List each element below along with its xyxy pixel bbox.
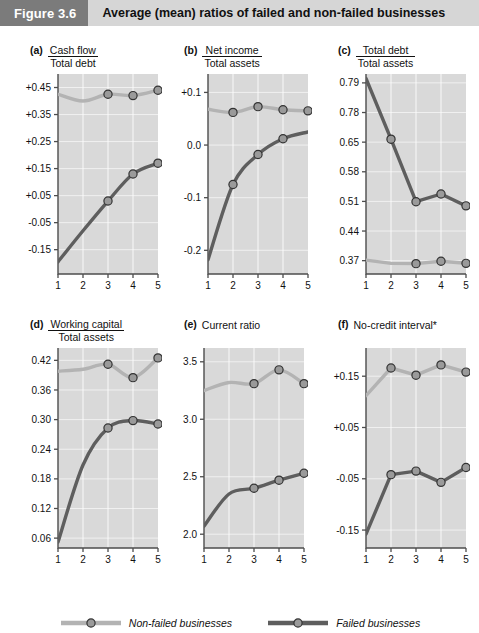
y-tick-label-a-5: -0.05: [28, 217, 51, 228]
y-tick-label-b-0: +0.1: [181, 87, 201, 98]
data-point-marker-d-1-4: [154, 420, 162, 428]
data-point-marker-c-1-2: [412, 198, 420, 206]
chart-svg-a: +0.45+0.35+0.25+0.15+0.05-0.05-0.1512345: [14, 70, 162, 293]
data-point-marker-a-0-4: [154, 86, 162, 94]
y-tick-label-f-3: -0.15: [336, 525, 359, 536]
y-tick-label-a-6: -0.15: [28, 244, 51, 255]
chart-panel-b: (b)Net incomeTotal assets+0.10.0-0.1-0.2…: [168, 44, 312, 293]
chart-title-a: (a)Cash flowTotal debt: [30, 44, 162, 70]
x-tick-label-d-2: 3: [105, 554, 111, 565]
legend-item-failed: Failed businesses: [266, 617, 420, 629]
chart-title-c: (c)Total debtTotal assets: [338, 44, 470, 70]
data-point-marker-d-1-2: [104, 424, 112, 432]
y-tick-label-d-3: 0.24: [32, 444, 52, 455]
panel-letter-d: (d): [30, 318, 43, 330]
data-point-marker-f-0-3: [437, 361, 445, 369]
x-tick-label-b-2: 3: [255, 280, 261, 291]
panel-letter-b: (b): [184, 44, 197, 56]
chart-legend: Non-failed businessesFailed businesses: [0, 612, 479, 633]
data-point-marker-e-0-4: [300, 380, 308, 388]
y-tick-label-a-3: +0.15: [26, 163, 52, 174]
y-tick-label-a-1: +0.35: [26, 109, 52, 120]
x-tick-label-d-4: 5: [155, 554, 161, 565]
ratio-numerator-a: Cash flow: [48, 44, 98, 57]
panel-letter-e: (e): [184, 318, 197, 330]
x-tick-label-e-4: 5: [301, 554, 307, 565]
data-point-marker-c-1-1: [387, 135, 395, 143]
chart-title-e: (e)Current ratio: [184, 318, 308, 344]
ratio-denominator-c: Total assets: [356, 57, 415, 69]
y-tick-label-c-0: 0.79: [340, 77, 360, 88]
data-point-marker-c-1-4: [462, 202, 470, 210]
x-tick-label-d-3: 4: [130, 554, 136, 565]
x-tick-label-f-2: 3: [413, 554, 419, 565]
x-tick-label-b-4: 5: [305, 280, 311, 291]
x-tick-label-b-1: 2: [230, 280, 236, 291]
y-tick-label-f-1: +0.05: [334, 422, 360, 433]
data-point-marker-b-0-2: [254, 103, 262, 111]
data-point-marker-e-0-2: [250, 380, 258, 388]
x-tick-label-c-0: 1: [363, 280, 369, 291]
legend-swatch-0: [59, 617, 123, 629]
x-tick-label-a-3: 4: [130, 280, 136, 291]
data-point-marker-b-1-1: [229, 180, 237, 188]
data-point-marker-f-0-4: [462, 368, 470, 376]
data-point-marker-a-0-3: [129, 92, 137, 100]
y-tick-label-c-6: 0.37: [340, 255, 360, 266]
panel-letter-f: (f): [338, 318, 349, 330]
legend-label-1: Failed businesses: [336, 617, 420, 629]
data-point-marker-d-0-2: [104, 360, 112, 368]
plain-title-e: Current ratio: [202, 318, 260, 331]
chart-panel-c: (c)Total debtTotal assets0.790.780.650.5…: [322, 44, 470, 293]
chart-title-d: (d)Working capitalTotal assets: [30, 318, 162, 344]
x-tick-label-f-0: 1: [363, 554, 369, 565]
y-tick-label-d-0: 0.42: [32, 355, 52, 366]
data-point-marker-f-1-1: [387, 471, 395, 479]
figure-number: Figure 3.6: [0, 0, 88, 26]
ratio-denominator-d: Total assets: [48, 331, 124, 343]
x-tick-label-d-1: 2: [80, 554, 86, 565]
x-tick-label-e-3: 4: [276, 554, 282, 565]
data-point-marker-b-0-1: [229, 108, 237, 116]
data-point-marker-e-1-4: [300, 469, 308, 477]
y-tick-label-a-2: +0.25: [26, 136, 52, 147]
chart-panel-f: (f)No-credit interval*+0.15+0.05-0.05-0.…: [322, 318, 470, 567]
chart-svg-b: +0.10.0-0.1-0.212345: [168, 70, 312, 293]
chart-title-b: (b)Net incomeTotal assets: [184, 44, 312, 70]
y-tick-label-e-0: 3.5: [183, 356, 197, 367]
x-tick-label-b-0: 1: [205, 280, 211, 291]
x-tick-label-a-4: 5: [155, 280, 161, 291]
data-point-marker-c-1-3: [437, 190, 445, 198]
chart-svg-f: +0.15+0.05-0.05-0.1512345: [322, 344, 470, 567]
data-point-marker-f-0-2: [412, 371, 420, 379]
ratio-numerator-c: Total debt: [356, 44, 415, 57]
legend-item-non-failed: Non-failed businesses: [59, 617, 232, 629]
data-point-marker-d-1-3: [129, 416, 137, 424]
y-tick-label-d-4: 0.18: [32, 473, 52, 484]
y-tick-label-c-2: 0.65: [340, 137, 360, 148]
data-point-marker-e-1-3: [275, 476, 283, 484]
y-tick-label-a-0: +0.45: [26, 82, 52, 93]
x-tick-label-c-2: 3: [413, 280, 419, 291]
chart-svg-e: 3.53.02.52.012345: [168, 344, 308, 567]
data-point-marker-a-1-3: [129, 170, 137, 178]
ratio-denominator-a: Total debt: [48, 57, 98, 69]
data-point-marker-b-0-4: [304, 107, 312, 115]
x-tick-label-a-2: 3: [105, 280, 111, 291]
ratio-fraction-d: Working capitalTotal assets: [48, 318, 124, 343]
chart-panel-a: (a)Cash flowTotal debt+0.45+0.35+0.25+0.…: [14, 44, 162, 293]
x-tick-label-a-0: 1: [55, 280, 61, 291]
plain-title-f: No-credit interval*: [354, 318, 437, 331]
x-tick-label-c-1: 2: [388, 280, 394, 291]
x-tick-label-c-4: 5: [463, 280, 469, 291]
y-tick-label-e-1: 3.0: [183, 414, 197, 425]
data-point-marker-b-1-3: [279, 135, 287, 143]
x-tick-label-e-2: 3: [251, 554, 257, 565]
data-point-marker-a-0-2: [104, 90, 112, 98]
y-tick-label-f-2: -0.05: [336, 473, 359, 484]
data-point-marker-e-0-3: [275, 366, 283, 374]
chart-panel-d: (d)Working capitalTotal assets0.420.360.…: [14, 318, 162, 567]
x-tick-label-d-0: 1: [55, 554, 61, 565]
y-tick-label-c-4: 0.51: [340, 196, 360, 207]
data-point-marker-d-0-4: [154, 354, 162, 362]
